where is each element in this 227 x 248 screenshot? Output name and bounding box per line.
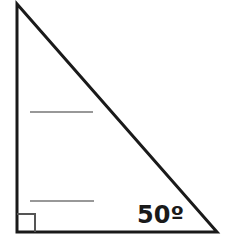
triangle-outline [17, 4, 217, 232]
right-triangle-diagram: 50º [0, 0, 227, 248]
right-angle-marker [17, 214, 35, 232]
angle-label: 50º [137, 201, 184, 229]
